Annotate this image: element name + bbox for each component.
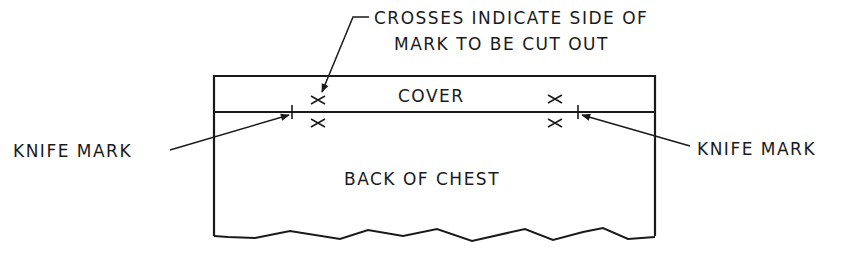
callout-line-1: CROSSES INDICATE SIDE OF: [374, 8, 648, 28]
body-label: BACK OF CHEST: [344, 169, 500, 189]
chest-diagram: CROSSES INDICATE SIDE OF MARK TO BE CUT …: [0, 0, 855, 257]
right-knife-label: KNIFE MARK: [697, 139, 816, 159]
right-leader: [582, 115, 690, 146]
break-line: [214, 228, 655, 241]
callout-line-2: MARK TO BE CUT OUT: [394, 34, 609, 54]
left-leader: [170, 115, 289, 150]
left-knife-label: KNIFE MARK: [13, 141, 132, 161]
cover-label: COVER: [398, 86, 465, 106]
callout-leader: [322, 17, 369, 92]
